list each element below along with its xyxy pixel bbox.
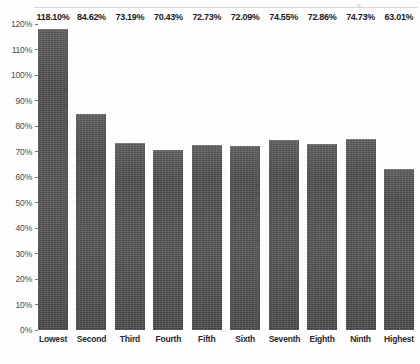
y-axis-tick: 100%: [11, 70, 38, 80]
x-axis-category-label: Third: [115, 334, 145, 344]
y-axis-tick: 70%: [16, 147, 38, 157]
x-axis-category-label: Fourth: [153, 334, 183, 344]
bar-value-label: 72.09%: [231, 12, 260, 22]
y-axis-tick: 10%: [16, 300, 38, 310]
bar[interactable]: 72.09%: [230, 146, 260, 330]
y-axis-tick: 0%: [20, 325, 38, 335]
x-axis-category-label: Seventh: [269, 334, 299, 344]
bar-value-label: 72.73%: [192, 12, 221, 22]
bar-value-label: 74.55%: [269, 12, 298, 22]
bar-value-label: 73.19%: [116, 12, 145, 22]
x-axis-category-labels: LowestSecondThirdFourthFifthSixthSeventh…: [38, 334, 414, 344]
bar[interactable]: 74.73%: [346, 139, 376, 330]
bar-slot: 70.43%: [153, 24, 183, 330]
y-axis-tick-label: 0%: [20, 325, 32, 335]
x-axis-category-label: Highest: [384, 334, 414, 344]
x-axis-category-label: Eighth: [307, 334, 337, 344]
bar-slot: 73.19%: [115, 24, 145, 330]
y-axis-tick-label: 120%: [11, 19, 32, 29]
bar-value-label: 84.62%: [77, 12, 106, 22]
y-axis-tick: 90%: [16, 96, 38, 106]
bar[interactable]: 73.19%: [115, 143, 145, 330]
bar-value-label: 63.01%: [385, 12, 414, 22]
x-axis-category-label: Sixth: [230, 334, 260, 344]
y-axis-tick-label: 40%: [16, 223, 32, 233]
y-axis-tick: 80%: [16, 121, 38, 131]
y-axis-tick: 40%: [16, 223, 38, 233]
bar-slot: 72.86%: [307, 24, 337, 330]
y-axis-tick-label: 90%: [16, 96, 32, 106]
bar-value-label: 74.73%: [346, 12, 375, 22]
y-axis-tick-label: 60%: [16, 172, 32, 182]
x-axis-category-label: Fifth: [192, 334, 222, 344]
bar-value-label: 72.86%: [308, 12, 337, 22]
y-axis-tick: 50%: [16, 198, 38, 208]
y-axis-tick-label: 110%: [12, 45, 32, 55]
y-axis-tick-label: 100%: [11, 70, 32, 80]
y-axis-tick: 110%: [12, 45, 38, 55]
y-axis-tick: 60%: [16, 172, 38, 182]
bar[interactable]: 70.43%: [153, 150, 183, 330]
bar-slot: 84.62%: [76, 24, 106, 330]
y-axis-tick-label: 50%: [16, 198, 32, 208]
bar-slot: 72.09%: [230, 24, 260, 330]
bar[interactable]: 118.10%: [38, 29, 68, 330]
y-axis-tick: 120%: [11, 19, 38, 29]
chart-page: 0%10%20%30%40%50%60%70%80%90%100%110%120…: [0, 0, 420, 364]
y-axis-tick-label: 70%: [16, 147, 32, 157]
y-axis-tick-label: 80%: [16, 121, 32, 131]
y-axis-tick: 20%: [16, 274, 38, 284]
y-axis-tick-label: 10%: [16, 300, 32, 310]
bar[interactable]: 72.86%: [307, 144, 337, 330]
x-axis-category-label: Second: [76, 334, 106, 344]
y-axis-tick: 30%: [16, 249, 38, 259]
y-axis-tick-label: 30%: [16, 249, 32, 259]
x-axis-category-label: Ninth: [346, 334, 376, 344]
scan-artifact-speck: [357, 4, 361, 7]
bar[interactable]: 84.62%: [76, 114, 106, 330]
bar-slot: 74.55%: [269, 24, 299, 330]
bar-slot: 72.73%: [192, 24, 222, 330]
bar[interactable]: 72.73%: [192, 145, 222, 330]
bar-value-label: 70.43%: [154, 12, 183, 22]
plot-area: 0%10%20%30%40%50%60%70%80%90%100%110%120…: [38, 24, 414, 330]
bar-series: 118.10%84.62%73.19%70.43%72.73%72.09%74.…: [38, 24, 414, 330]
bar-slot: 118.10%: [38, 24, 68, 330]
bar[interactable]: 63.01%: [384, 169, 414, 330]
bar-slot: 63.01%: [384, 24, 414, 330]
x-axis-category-label: Lowest: [38, 334, 68, 344]
y-axis-tick-label: 20%: [16, 274, 32, 284]
bar-value-label: 118.10%: [37, 12, 70, 22]
bar[interactable]: 74.55%: [269, 140, 299, 330]
scan-artifact-line: [34, 7, 418, 8]
bar-slot: 74.73%: [346, 24, 376, 330]
